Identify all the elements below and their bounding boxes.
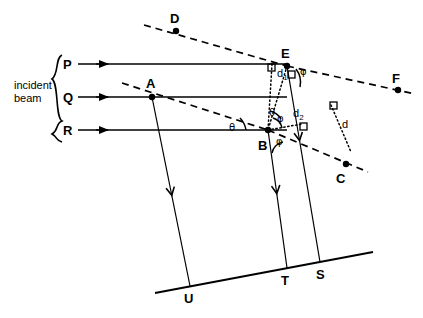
point-label-T: T xyxy=(281,273,289,288)
point-label-E: E xyxy=(281,46,290,61)
scattered-ray-group xyxy=(152,66,320,286)
point-label-S: S xyxy=(316,267,325,282)
point-label-A: A xyxy=(146,76,156,91)
dashed-ray-A-to-C xyxy=(122,83,268,130)
angle-label-phi-E: φ xyxy=(300,66,307,77)
incident-beam-brace xyxy=(52,55,62,142)
distance-label-d2: d2 xyxy=(293,107,304,122)
point-dot-F xyxy=(395,87,401,93)
point-dot-C xyxy=(343,161,349,167)
angle-label-theta-A: θ xyxy=(229,122,235,133)
distance-label-d1: d1 xyxy=(277,67,288,82)
dashed-ray-B-to-C xyxy=(268,130,368,172)
distance-label-d: d xyxy=(342,118,348,130)
point-label-U: U xyxy=(184,291,193,306)
point-label-F: F xyxy=(392,71,400,86)
angle-label-phi-B2: φ xyxy=(276,136,283,147)
point-dot-D xyxy=(173,28,179,34)
point-label-P: P xyxy=(63,57,72,72)
diagram-canvas: PQRABEDFCUTS d1d2d θθφφφ incident beam xyxy=(0,0,423,318)
point-dot-B xyxy=(265,127,271,133)
scattered-ray-E-to-S xyxy=(287,66,320,262)
diffracted-dashed-ray-group xyxy=(122,25,415,172)
point-label-D: D xyxy=(170,11,179,26)
point-dot-E xyxy=(284,63,290,69)
point-label-group: PQRABEDFCUTS xyxy=(63,11,400,306)
bragg-diffraction-figure: PQRABEDFCUTS d1d2d θθφφφ incident beam xyxy=(0,0,423,318)
incident-beam-label-line2: beam xyxy=(14,92,42,104)
point-label-C: C xyxy=(336,171,346,186)
dashed-ray-D-to-E xyxy=(144,25,287,66)
scattered-ray-B-to-T xyxy=(268,130,287,268)
point-label-R: R xyxy=(63,123,73,138)
incident-beam-label-line1: incident xyxy=(14,79,52,91)
scattered-ray-A-to-U xyxy=(152,97,190,286)
point-label-Q: Q xyxy=(63,90,73,105)
angle-label-theta-B: θ xyxy=(269,107,275,118)
incident-ray-group xyxy=(78,64,287,130)
angle-label-phi-B1: φ xyxy=(277,113,284,124)
point-dot-A xyxy=(149,94,155,100)
point-label-B: B xyxy=(258,138,267,153)
arc-theta-A xyxy=(240,118,246,130)
